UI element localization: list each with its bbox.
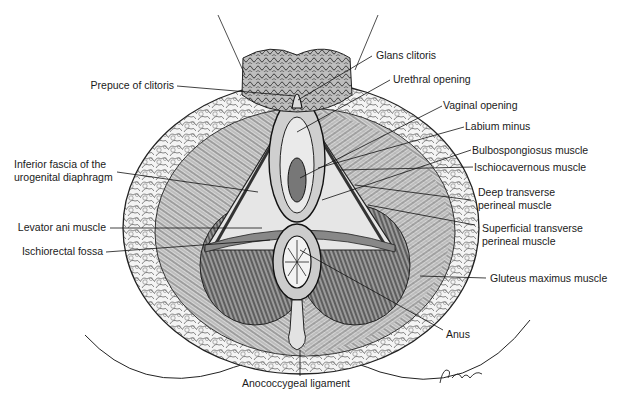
label-vaginal-opening: Vaginal opening: [443, 99, 518, 112]
label-glans-clitoris: Glans clitoris: [376, 49, 436, 62]
label-gluteus-maximus-muscle: Gluteus maximus muscle: [490, 272, 607, 285]
label-anococcygeal-ligament: Anococcygeal ligament: [242, 377, 350, 390]
vaginal-opening: [288, 158, 306, 202]
artist-signature: [440, 370, 482, 383]
label-inferior-fascia-line2: urogenital diaphragm: [14, 171, 113, 184]
label-labium-minus: Labium minus: [465, 120, 530, 133]
label-ischiorectal-fossa: Ischiorectal fossa: [10, 245, 103, 258]
label-deep-transverse-line1: Deep transverse: [478, 186, 555, 199]
label-levator-ani-muscle: Levator ani muscle: [10, 221, 106, 234]
label-deep-transverse-line2: perineal muscle: [478, 199, 552, 212]
label-urethral-opening: Urethral opening: [393, 73, 471, 86]
label-bulbospongiosus-muscle: Bulbospongiosus muscle: [472, 144, 588, 157]
label-prepuce-of-clitoris: Prepuce of clitoris: [60, 79, 174, 92]
label-inferior-fascia-line1: Inferior fascia of the: [14, 158, 106, 171]
label-ischiocavernous-muscle: Ischiocavernous muscle: [474, 161, 586, 174]
label-superficial-transverse-line2: perineal muscle: [482, 235, 556, 248]
label-anus: Anus: [446, 328, 470, 341]
label-superficial-transverse-line1: Superficial transverse: [482, 222, 583, 235]
